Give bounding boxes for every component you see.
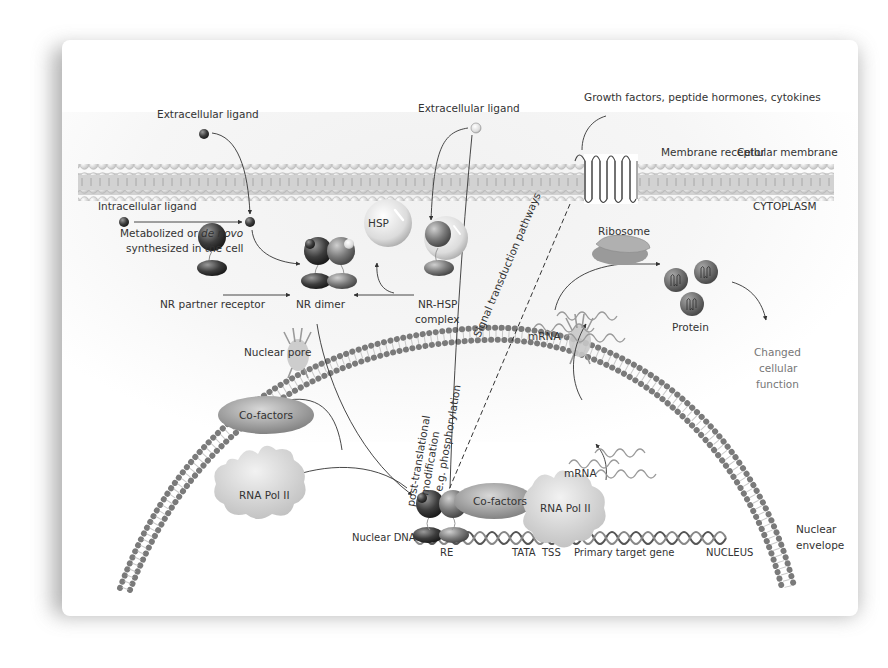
cellular-membrane [78,164,834,201]
rna-pol-left-icon [214,446,305,519]
extracellular-ligand-left-icon [199,129,209,139]
label-mrna-nucleus: mRNA [564,467,597,479]
label-cellular-membrane: Cellular membrane [737,146,838,158]
label-cofactors-complex: Co-factors [473,495,527,507]
label-nuclear-envelope-line2: envelope [796,539,844,551]
label-rna-pol-left: RNA Pol II [239,489,290,501]
nuclear-envelope [120,328,794,590]
ligand-metabolized-icon [245,217,255,227]
label-intracellular-ligand: Intracellular ligand [98,200,197,212]
label-primary-target-gene: Primary target gene [574,547,674,558]
label-cofactors-left: Co-factors [239,409,293,421]
label-tata: TATA [511,547,536,558]
label-nuclear-pore: Nuclear pore [244,346,311,358]
label-rna-pol-complex: RNA Pol II [540,502,591,514]
label-tss: TSS [541,547,561,558]
label-nr-hsp-line1: NR-HSP [418,298,457,310]
intracellular-ligand-icon [119,217,129,227]
label-mrna-cytoplasm: mRNA [528,330,561,342]
label-nr-partner-receptor: NR partner receptor [160,298,266,310]
protein-icon [664,260,718,316]
diagram-canvas: Extracellular ligand Extracellular ligan… [62,40,858,616]
label-cytoplasm: CYTOPLASM [753,200,817,212]
label-extracellular-ligand-left: Extracellular ligand [157,108,259,120]
label-re: RE [440,547,453,558]
label-ribosome: Ribosome [598,225,650,237]
label-nucleus: NUCLEUS [706,547,753,558]
diagram-card: Extracellular ligand Extracellular ligan… [62,40,858,616]
extracellular-ligand-center-icon [471,123,481,133]
label-growth-factors: Growth factors, peptide hormones, cytoki… [584,91,821,103]
ribosome-icon [592,235,650,265]
label-changed-line3: function [756,378,799,390]
label-changed-line1: Changed [754,346,801,358]
label-nr-dimer: NR dimer [296,298,346,310]
label-nuclear-envelope-line1: Nuclear [796,523,837,535]
label-metabolized: Metabolized or de novo [120,227,243,239]
label-changed-line2: cellular [759,362,798,374]
label-synthesized: synthesized in the cell [126,242,243,254]
label-hsp: HSP [368,217,389,229]
label-signal-transduction: Signal transduction pathways [471,191,543,339]
label-nuclear-dna: Nuclear DNA [352,532,416,543]
nr-dimer-icon [301,237,357,289]
label-protein: Protein [672,321,709,333]
membrane-receptor-icon [575,154,638,204]
label-extracellular-ligand-center: Extracellular ligand [418,102,520,114]
label-nr-hsp-line2: complex [415,313,460,325]
